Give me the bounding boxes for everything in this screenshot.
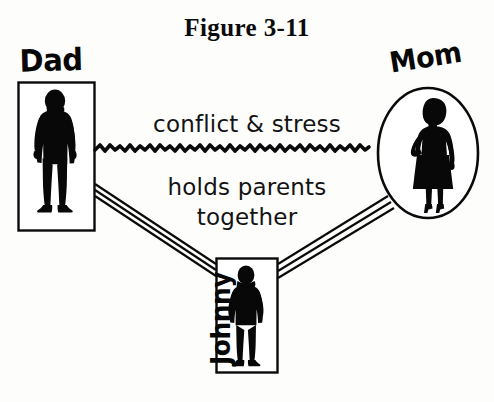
jagged-wavy-line [95, 145, 369, 151]
figure-3-11-diagram: Figure 3-11 [0, 0, 494, 402]
conflict-and-stress-caption: conflict & stress [0, 111, 494, 137]
johnny-label: Johnny [207, 272, 233, 365]
dad-johnny-line-2 [95, 190, 216, 270]
holds-parents-caption-line-1: holds parents [0, 174, 494, 200]
conflict-and-stress-connector [95, 145, 369, 151]
dad-label: Dad [19, 45, 83, 77]
holds-parents-caption-line-2: together [0, 204, 494, 230]
